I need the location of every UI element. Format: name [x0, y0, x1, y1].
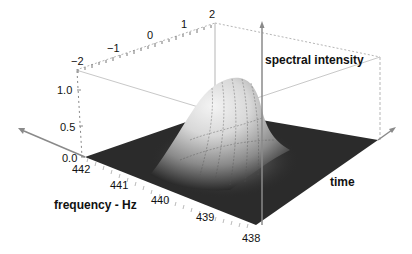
time-tick-label: −1 — [107, 43, 120, 54]
frequency-tick-label: 438 — [242, 233, 260, 244]
frequency-tick-label: 442 — [72, 164, 90, 175]
time-tick-label: 2 — [209, 9, 215, 20]
frequency-tick-label: 439 — [196, 212, 214, 223]
time-tick-label: 1 — [181, 19, 187, 30]
z-axis — [77, 71, 85, 157]
frequency-tick-label: 440 — [151, 195, 169, 206]
time-axis-title: time — [330, 176, 355, 188]
frequency-tick-label: 441 — [110, 180, 128, 191]
z-axis-title: spectral intensity — [265, 54, 364, 66]
z-tick-label: 0.5 — [60, 122, 75, 133]
time-axis-ticks — [78, 25, 211, 73]
z-tick-label: 1.0 — [57, 85, 72, 96]
time-axis-arrow — [378, 127, 396, 140]
time-tick-label: −2 — [71, 56, 84, 67]
frequency-axis-title: frequency - Hz — [54, 199, 137, 211]
time-tick-label: 0 — [147, 30, 153, 41]
